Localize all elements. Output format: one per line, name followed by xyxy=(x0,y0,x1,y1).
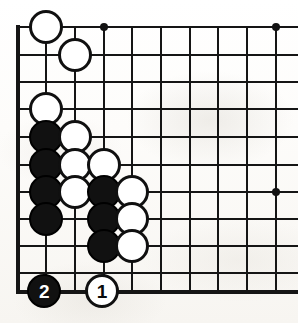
stone-layer: 21 xyxy=(0,0,298,323)
black-stone xyxy=(29,202,63,236)
white-stone xyxy=(115,229,149,263)
stone-move-number-label: 2 xyxy=(29,276,59,306)
white-stone xyxy=(29,10,63,44)
go-board-diagram: 21 xyxy=(0,0,298,323)
move-marker-stone-1: 1 xyxy=(85,274,119,308)
stone-move-number-label: 1 xyxy=(88,277,116,305)
move-marker-stone-2: 2 xyxy=(27,274,61,308)
white-stone xyxy=(58,38,92,72)
